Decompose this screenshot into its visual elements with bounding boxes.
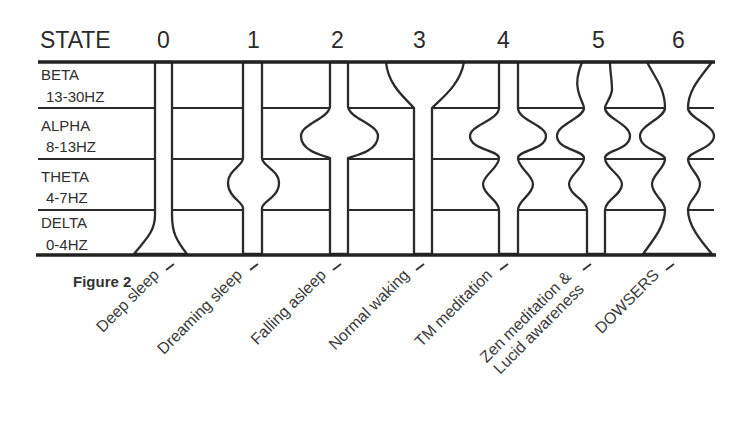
figure-label: Figure 2 — [73, 273, 131, 290]
state-label-3: Normal waking — [325, 266, 412, 353]
state-number-6: 6 — [672, 27, 685, 53]
state-label-1: Dreaming sleep — [154, 266, 245, 357]
state-header: STATE — [40, 27, 111, 53]
state-number-1: 1 — [247, 27, 260, 53]
state-number-0: 0 — [157, 27, 170, 53]
band-alpha-range: 8-13HZ — [46, 138, 96, 155]
state-number-3: 3 — [413, 27, 426, 53]
band-alpha-name: ALPHA — [41, 117, 90, 134]
state-label-4: TM meditation — [411, 266, 495, 350]
band-delta-name: DELTA — [41, 214, 87, 231]
state-number-5: 5 — [592, 27, 605, 53]
state-label-2: Falling asleep — [247, 266, 329, 348]
state-number-4: 4 — [497, 27, 510, 53]
state-number-2: 2 — [331, 27, 344, 53]
band-beta-range: 13-30HZ — [46, 88, 104, 105]
label-ticks — [166, 264, 674, 270]
state-labels: Deep sleep Dreaming sleep Falling asleep… — [93, 266, 662, 377]
band-theta-range: 4-7HZ — [46, 189, 88, 206]
band-beta-name: BETA — [41, 66, 79, 83]
brainwave-states-diagram: STATE 0 1 2 3 4 5 6 BETA 13-30HZ ALPHA 8… — [0, 0, 756, 426]
band-theta-name: THETA — [41, 168, 89, 185]
band-delta-range: 0-4HZ — [46, 236, 88, 253]
state-label-6: DOWSERS — [592, 266, 662, 336]
